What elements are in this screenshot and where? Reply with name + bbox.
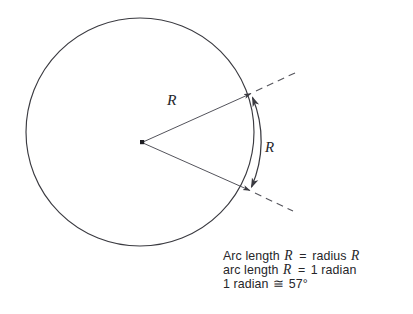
caption-line-2-var1: R <box>282 262 292 277</box>
caption-line-1-pre: Arc length <box>223 249 280 263</box>
radius-label-R: R <box>166 91 177 108</box>
lower-radius-line <box>143 143 250 191</box>
caption-line-1-mid: radius <box>312 249 346 263</box>
center-dot <box>140 140 144 144</box>
caption-line-3: 1 radian ≅ 57° <box>223 277 413 291</box>
arc-double-arrow <box>252 98 262 188</box>
caption-line-1-var2: R <box>350 248 360 263</box>
caption-line-1: Arc length R = radius R <box>223 249 413 263</box>
upper-dashed-extension <box>256 72 297 91</box>
arc-label-R: R <box>264 139 274 155</box>
figure-canvas: R R Arc length R = radius R arc length R… <box>0 0 413 314</box>
main-circle <box>26 18 254 246</box>
caption-line-3-pre: 1 radian <box>223 277 269 291</box>
lower-dashed-extension <box>255 193 293 211</box>
upper-radius-line <box>143 94 251 143</box>
caption-line-1-var1: R <box>283 248 293 263</box>
caption: Arc length R = radius R arc length R = 1… <box>223 249 413 292</box>
caption-line-2-mid: 1 radian <box>311 263 357 277</box>
caption-line-1-eq: = <box>297 249 308 263</box>
caption-line-2-pre: arc length <box>223 263 278 277</box>
caption-line-3-mid: 57° <box>289 277 308 291</box>
caption-line-2-eq: = <box>296 263 307 277</box>
caption-line-2: arc length R = 1 radian <box>223 263 413 277</box>
caption-line-3-eq: ≅ <box>272 276 285 291</box>
